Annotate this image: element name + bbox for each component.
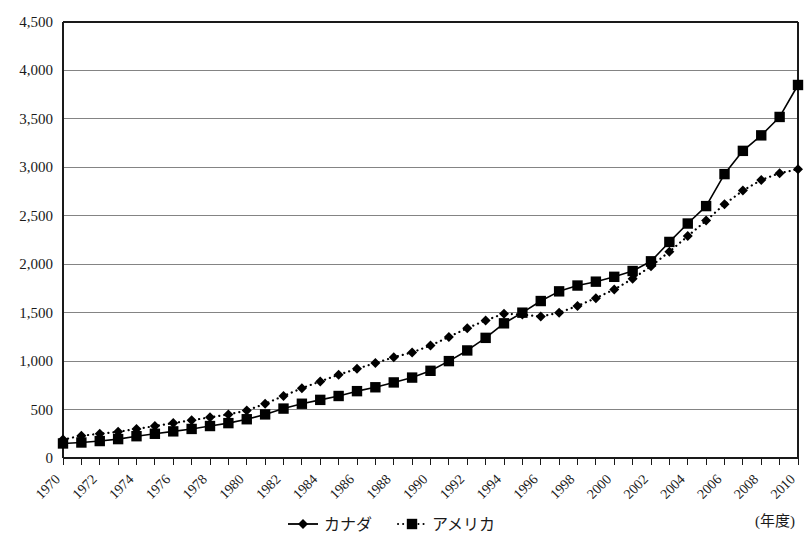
data-point-square xyxy=(168,426,178,436)
data-point-diamond xyxy=(775,168,785,178)
x-tick-label: 1976 xyxy=(143,472,173,502)
data-point-square xyxy=(480,333,490,343)
data-point-square xyxy=(774,112,784,122)
data-point-diamond xyxy=(407,347,417,357)
data-point-square xyxy=(333,391,343,401)
legend: カナダアメリカ xyxy=(288,516,495,533)
y-tick-label: 1,500 xyxy=(19,305,53,321)
data-point-square xyxy=(425,366,435,376)
data-point-diamond xyxy=(462,323,472,333)
data-point-diamond xyxy=(260,399,270,409)
x-tick-label: 1974 xyxy=(106,472,136,502)
data-point-diamond xyxy=(187,415,197,425)
data-point-square xyxy=(407,519,417,529)
data-point-square xyxy=(517,307,527,317)
x-tick-label: 1998 xyxy=(547,472,577,502)
data-point-diamond xyxy=(279,391,289,401)
data-point-square xyxy=(278,403,288,413)
y-tick-label: 3,000 xyxy=(19,159,53,175)
data-point-square xyxy=(591,276,601,286)
data-point-square xyxy=(627,266,637,276)
data-point-square xyxy=(113,434,123,444)
data-point-diamond xyxy=(499,309,509,319)
y-tick-label: 0 xyxy=(46,450,54,466)
x-tick-label: 1970 xyxy=(33,472,63,502)
legend-label-canada: カナダ xyxy=(324,516,372,533)
data-point-square xyxy=(701,201,711,211)
chart-container: 05001,0001,5002,0002,5003,0003,5004,0004… xyxy=(0,0,810,549)
x-tick-label: 1996 xyxy=(510,472,540,502)
data-point-diamond xyxy=(481,315,491,325)
y-tick-label: 4,000 xyxy=(19,62,53,78)
data-point-square xyxy=(205,421,215,431)
data-point-square xyxy=(664,237,674,247)
y-tick-label: 500 xyxy=(31,402,54,418)
x-tick-label: 1982 xyxy=(253,472,283,502)
x-tick-label: 1980 xyxy=(216,472,246,502)
x-tick-label: 1990 xyxy=(400,472,430,502)
data-point-diamond xyxy=(298,519,308,529)
x-tick-label: 1992 xyxy=(437,472,467,502)
data-point-square xyxy=(407,372,417,382)
data-point-square xyxy=(297,399,307,409)
data-point-diamond xyxy=(242,406,252,416)
data-point-square xyxy=(756,130,766,140)
data-point-square xyxy=(444,356,454,366)
data-point-diamond xyxy=(426,341,436,351)
data-point-diamond xyxy=(701,216,711,226)
x-tick-label: 1978 xyxy=(180,472,210,502)
data-point-square xyxy=(683,218,693,228)
data-point-square xyxy=(719,169,729,179)
data-point-square xyxy=(499,318,509,328)
data-point-square xyxy=(793,80,803,90)
y-tick-label: 4,500 xyxy=(19,14,53,30)
data-point-square xyxy=(95,436,105,446)
data-point-diamond xyxy=(756,175,766,185)
data-point-diamond xyxy=(591,293,601,303)
y-tick-label: 2,500 xyxy=(19,208,53,224)
x-tick-label: 2010 xyxy=(768,472,798,502)
data-point-square xyxy=(150,429,160,439)
x-tick-label: 1994 xyxy=(474,472,504,502)
series-line xyxy=(63,169,798,439)
data-point-diamond xyxy=(205,412,215,422)
data-point-square xyxy=(186,424,196,434)
x-tick-label: 2008 xyxy=(731,472,761,502)
data-point-square xyxy=(554,286,564,296)
data-point-square xyxy=(352,386,362,396)
data-point-square xyxy=(131,431,141,441)
data-point-square xyxy=(58,438,68,448)
data-point-square xyxy=(646,256,656,266)
data-point-diamond xyxy=(352,364,362,374)
x-tick-label: 1972 xyxy=(69,472,99,502)
data-point-diamond xyxy=(315,376,325,386)
data-point-diamond xyxy=(554,308,564,318)
data-point-diamond xyxy=(609,284,619,294)
data-point-diamond xyxy=(223,409,233,419)
data-point-square xyxy=(572,280,582,290)
data-point-diamond xyxy=(720,199,730,209)
x-tick-label: 2006 xyxy=(694,472,724,502)
data-point-square xyxy=(260,409,270,419)
series-1 xyxy=(58,164,803,444)
y-axis-ticklabels: 05001,0001,5002,0002,5003,0003,5004,0004… xyxy=(19,14,53,466)
y-tick-label: 2,000 xyxy=(19,256,53,272)
data-point-diamond xyxy=(297,383,307,393)
data-point-square xyxy=(536,296,546,306)
x-tick-label: 2004 xyxy=(657,472,687,502)
x-axis-ticklabels: 1970197219741976197819801982198419861988… xyxy=(33,472,798,502)
data-point-diamond xyxy=(793,164,803,174)
y-tick-label: 3,500 xyxy=(19,111,53,127)
data-point-square xyxy=(609,272,619,282)
data-point-square xyxy=(315,395,325,405)
data-point-diamond xyxy=(334,370,344,380)
x-tick-label: 1984 xyxy=(290,472,320,502)
data-point-square xyxy=(242,414,252,424)
data-point-square xyxy=(370,382,380,392)
x-tick-label: 2000 xyxy=(584,472,614,502)
data-point-diamond xyxy=(573,301,583,311)
data-point-square xyxy=(389,377,399,387)
data-point-diamond xyxy=(370,358,380,368)
data-point-square xyxy=(462,345,472,355)
data-point-square xyxy=(223,418,233,428)
